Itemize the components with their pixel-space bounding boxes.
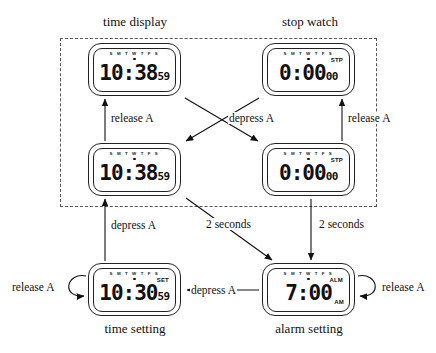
day-indicator: S M T W T F S [94, 271, 175, 276]
lcd-secondary: 00 [326, 70, 338, 83]
watch-lcd-panel: S M T W T F S SET 10:3059 [93, 268, 176, 312]
watch-lcd-panel: S M T W T F S STP 0:0000 [267, 48, 350, 92]
lcd-readout: 10:3059 [94, 282, 175, 304]
state-alarm-setting[interactable]: S M T W T F S ALM AM 7:00 [262, 263, 355, 316]
lcd-readout: 10:3859 [94, 62, 175, 84]
lcd-secondary: 00 [326, 170, 338, 183]
lcd-primary: 10:38 [99, 61, 157, 85]
lcd-primary: 0:00 [279, 61, 326, 85]
state-time-setting[interactable]: S M T W T F S SET 10:3059 [88, 263, 181, 316]
state-stop-watch-depressed[interactable]: S M T W T F S STP 0:0000 [262, 143, 355, 196]
day-indicator: S M T W T F S [94, 151, 175, 156]
lcd-readout: 7:00 [268, 282, 349, 304]
lcd-readout: 10:3859 [94, 162, 175, 184]
edge-label-release-a-time-setting-loop: release A [11, 281, 55, 293]
state-stop-watch-released[interactable]: S M T W T F S STP 0:0000 [262, 43, 355, 96]
lcd-primary: 10:30 [99, 281, 157, 305]
caption-time-setting: time setting [79, 321, 191, 337]
lcd-secondary: 59 [157, 290, 169, 303]
lcd-primary: 10:38 [99, 161, 157, 185]
edge-label-depress-a-cross: depress A [228, 112, 275, 124]
edge-label-depress-a-time-setting: depress A [110, 219, 157, 231]
day-indicator: S M T W T F S [268, 271, 349, 276]
state-time-display-released[interactable]: S M T W T F S 10:3859 [88, 43, 181, 96]
edge-label-2-seconds-vertical: 2 seconds [318, 218, 365, 230]
state-time-display-depressed[interactable]: S M T W T F S 10:3859 [88, 143, 181, 196]
group-caption-time-display: time display [80, 14, 190, 30]
lcd-primary: 0:00 [279, 161, 326, 185]
group-caption-stop-watch: stop watch [255, 14, 365, 30]
watch-lcd-panel: S M T W T F S ALM AM 7:00 [267, 268, 350, 312]
edge-label-depress-a-alarm-to-time: depress A [190, 284, 237, 296]
lcd-primary: 7:00 [285, 281, 332, 305]
diagram-canvas: time display stop watch S M T W T F S 10… [0, 0, 436, 353]
caption-alarm-setting: alarm setting [253, 321, 365, 337]
day-indicator: S M T W T F S [268, 51, 349, 56]
lcd-readout: 0:0000 [268, 62, 349, 84]
lcd-readout: 0:0000 [268, 162, 349, 184]
watch-lcd-panel: S M T W T F S STP 0:0000 [267, 148, 350, 192]
lcd-secondary: 59 [157, 170, 169, 183]
edge-label-release-a-left: release A [110, 112, 154, 124]
edge-label-release-a-right: release A [347, 112, 391, 124]
day-indicator: S M T W T F S [268, 151, 349, 156]
day-indicator: S M T W T F S [94, 51, 175, 56]
lcd-secondary: 59 [157, 70, 169, 83]
watch-lcd-panel: S M T W T F S 10:3859 [93, 48, 176, 92]
edge-label-release-a-alarm-setting-loop: release A [381, 281, 425, 293]
watch-lcd-panel: S M T W T F S 10:3859 [93, 148, 176, 192]
edge-label-2-seconds-diagonal: 2 seconds [205, 218, 252, 230]
